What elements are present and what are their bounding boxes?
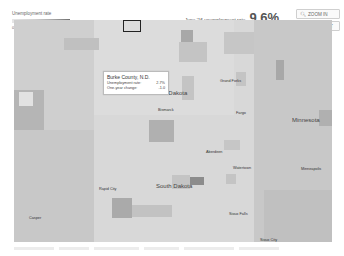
county-region[interactable] [14, 130, 94, 242]
choropleth-map[interactable]: North Dakota South Dakota Minnesota Gran… [14, 20, 332, 242]
county-region[interactable] [182, 76, 194, 100]
city-label: Minneapolis [301, 167, 321, 171]
county-region[interactable] [179, 42, 207, 62]
tooltip-change-label: One-year change: [107, 86, 137, 90]
footer-caption [14, 247, 314, 251]
county-region[interactable] [132, 205, 172, 217]
county-tooltip: Burke County, N.D. Unemployment rate: 2.… [103, 71, 169, 95]
legend-title: Unemployment rate [12, 11, 72, 16]
selected-county-burke[interactable] [123, 20, 141, 32]
state-label-south-dakota: South Dakota [156, 183, 192, 189]
city-label: Sioux Falls [229, 212, 248, 216]
county-region[interactable] [224, 32, 254, 54]
county-region[interactable] [264, 190, 332, 242]
tooltip-title: Burke County, N.D. [107, 74, 165, 80]
county-region[interactable] [64, 38, 99, 50]
county-region[interactable] [226, 174, 236, 184]
county-region[interactable] [224, 140, 240, 150]
magnifier-icon: 🔍︎ [300, 11, 306, 17]
zoom-in-button[interactable]: 🔍︎ ZOOM IN [296, 9, 340, 19]
tooltip-rate-value: 2.7% [156, 81, 165, 85]
city-label: Rapid City [99, 187, 117, 191]
city-label: Watertown [233, 166, 251, 170]
state-label-minnesota: Minnesota [292, 117, 320, 123]
county-region[interactable] [319, 110, 332, 126]
county-region[interactable] [94, 20, 234, 115]
county-region[interactable] [112, 198, 132, 218]
county-region[interactable] [149, 120, 174, 142]
county-region[interactable] [181, 30, 193, 42]
city-label: Aberdeen [206, 150, 222, 154]
zoom-in-label: ZOOM IN [308, 12, 328, 17]
county-region[interactable] [19, 92, 33, 106]
city-label: Grand Forks [220, 79, 241, 83]
tooltip-rate-label: Unemployment rate: [107, 81, 141, 85]
city-label: Fargo [236, 111, 246, 115]
county-region[interactable] [276, 60, 284, 80]
city-label: Casper [29, 216, 41, 220]
city-label: Sioux City [260, 238, 277, 242]
city-label: Bismarck [158, 108, 174, 112]
tooltip-change-value: -1.0 [158, 86, 165, 90]
